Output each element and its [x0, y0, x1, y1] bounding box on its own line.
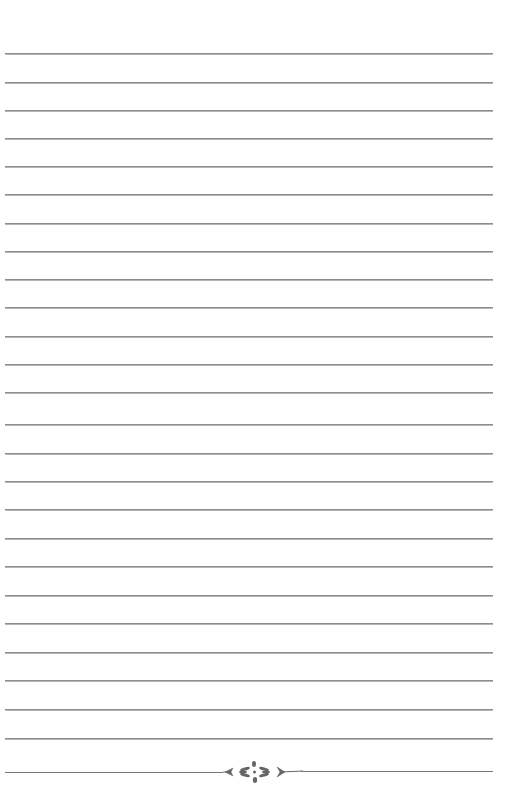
ruled-line	[5, 680, 493, 682]
ruled-line	[5, 251, 493, 253]
ruled-line	[5, 53, 493, 55]
ruled-line	[5, 709, 493, 711]
ruled-line	[5, 623, 493, 625]
ruled-line	[5, 453, 493, 455]
ruled-line	[5, 595, 493, 597]
ruled-line	[5, 307, 493, 309]
ruled-line	[5, 392, 493, 394]
ruled-line	[5, 194, 493, 196]
divider-line-left	[5, 772, 223, 773]
notebook-page	[0, 0, 518, 801]
ruled-line	[5, 110, 493, 112]
ruled-line	[5, 424, 493, 426]
floral-divider-icon	[223, 760, 303, 784]
ruled-line	[5, 223, 493, 225]
ruled-line	[5, 481, 493, 483]
footer-ornament-divider	[5, 760, 493, 784]
divider-line-right	[301, 771, 493, 772]
ruled-line	[5, 138, 493, 140]
ruled-line	[5, 538, 493, 540]
ruled-line	[5, 566, 493, 568]
ruled-line	[5, 652, 493, 654]
ruled-line	[5, 82, 493, 84]
ruled-line	[5, 166, 493, 168]
ruled-line	[5, 738, 493, 740]
ruled-line	[5, 336, 493, 338]
ruled-line	[5, 364, 493, 366]
ruled-line	[5, 509, 493, 511]
ruled-line	[5, 279, 493, 281]
